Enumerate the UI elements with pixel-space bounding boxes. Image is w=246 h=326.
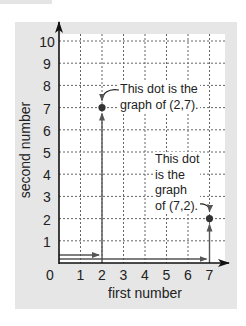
y-tick-label: 7: [43, 101, 51, 117]
annotation-line: This dot is the: [120, 82, 199, 98]
axes: [59, 22, 229, 264]
annotation-line: of (7,2).: [155, 199, 199, 215]
annotation-line: graph: [155, 183, 199, 199]
y-axis-label: second number: [17, 102, 33, 199]
y-tick-label: 5: [43, 145, 51, 161]
x-tick-label: 4: [141, 267, 149, 283]
y-tick-label: 6: [43, 123, 51, 139]
annotation-line: This dot: [155, 152, 199, 168]
y-tick-label: 10: [39, 34, 55, 50]
annotation-2-7: This dot is the graph of (2,7).: [119, 82, 200, 113]
y-tick-label: 1: [43, 234, 51, 250]
x-tick-label: 5: [163, 267, 171, 283]
y-tick-label: 8: [43, 78, 51, 94]
data-point: [206, 215, 213, 222]
y-tick-label: 2: [43, 212, 51, 228]
y-tick-label: 3: [43, 189, 51, 205]
leader-curve: [102, 90, 119, 101]
x-tick-label: 2: [98, 267, 106, 283]
x-tick-label: 7: [206, 267, 214, 283]
x-tick-label: 6: [184, 267, 192, 283]
x-tick-label: 3: [120, 267, 128, 283]
x-tick-label: 1: [77, 267, 85, 283]
grid-lines: [59, 34, 225, 263]
x-axis-label: first number: [108, 285, 182, 301]
data-point: [98, 104, 105, 111]
y-tick-label: 9: [43, 56, 51, 72]
annotation-line: is the: [155, 168, 199, 184]
x-tick-label: 0: [46, 267, 54, 283]
annotation-7-2: This dot is the graph of (7,2).: [154, 152, 200, 214]
y-tick-label: 4: [43, 167, 51, 183]
annotation-line: graph of (2,7).: [120, 98, 199, 114]
